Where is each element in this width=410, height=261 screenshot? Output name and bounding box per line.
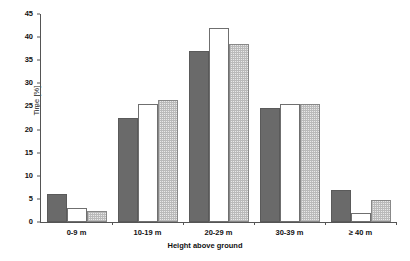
y-axis-tick-label: 30 — [5, 80, 33, 88]
x-axis-tick-mark — [112, 222, 113, 225]
bar — [118, 118, 138, 222]
bar-group — [189, 14, 249, 222]
y-axis-tick-label: 35 — [5, 56, 33, 64]
y-axis-tick-label: 20 — [5, 126, 33, 134]
bar-chart: Time [%] 051015202530354045 Height above… — [0, 0, 410, 261]
y-axis-tick-label: 40 — [5, 33, 33, 41]
y-axis-tick-label: 25 — [5, 103, 33, 111]
bar — [351, 213, 371, 222]
y-axis-tick-label: 45 — [5, 10, 33, 18]
bar — [138, 104, 158, 222]
bar — [189, 51, 209, 222]
bar — [280, 104, 300, 222]
plot-area — [41, 14, 396, 222]
y-axis-tick-label: 10 — [5, 172, 33, 180]
x-axis-line — [40, 222, 396, 223]
bar-group — [118, 14, 178, 222]
x-axis-title: Height above ground — [0, 241, 410, 250]
x-axis-tick-label: 20-29 m — [205, 228, 233, 237]
x-axis-tick-label: ≥ 40 m — [349, 228, 372, 237]
bar — [331, 190, 351, 222]
bar — [67, 208, 87, 222]
bar — [260, 108, 280, 222]
bar — [371, 200, 391, 222]
bar — [47, 194, 67, 222]
bar — [300, 104, 320, 222]
y-axis-tick-label: 15 — [5, 149, 33, 157]
x-axis-tick-mark — [396, 222, 397, 225]
bar-group — [331, 14, 391, 222]
bar — [229, 44, 249, 222]
x-axis-tick-label: 10-19 m — [134, 228, 162, 237]
x-axis-tick-mark — [183, 222, 184, 225]
bar — [87, 211, 107, 222]
bar — [158, 100, 178, 222]
x-axis-tick-mark — [325, 222, 326, 225]
bar-group — [260, 14, 320, 222]
bar-group — [47, 14, 107, 222]
x-axis-tick-mark — [254, 222, 255, 225]
bar — [209, 28, 229, 222]
y-axis-tick-label: 5 — [5, 195, 33, 203]
x-axis-tick-label: 0-9 m — [67, 228, 87, 237]
x-axis-tick-label: 30-39 m — [276, 228, 304, 237]
y-axis-tick-label: 0 — [5, 218, 33, 226]
y-axis-tick-labels: 051015202530354045 — [0, 0, 40, 261]
